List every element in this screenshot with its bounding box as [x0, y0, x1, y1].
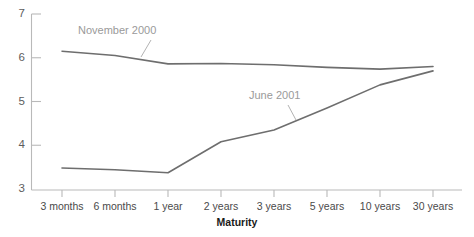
x-axis-title: Maturity [217, 216, 258, 228]
y-tick-label-6: 6 [19, 51, 25, 63]
x-tick-label-3-months: 3 months [40, 200, 83, 212]
annotation-june-2001: June 2001 [249, 89, 300, 101]
leader-line-june-2001 [288, 105, 296, 120]
x-tick-label-10-years: 10 years [360, 200, 400, 212]
yield-curve-chart: 7 6 5 4 3 3 months 6 months 1 year 2 yea… [0, 0, 474, 237]
series-line-june-2001 [62, 71, 433, 173]
y-tick-labels: 7 6 5 4 3 [19, 7, 26, 194]
x-tick-label-1-year: 1 year [153, 200, 183, 212]
y-tick-label-3: 3 [19, 182, 25, 194]
x-tick-label-5-years: 5 years [310, 200, 344, 212]
x-tick-label-3-years: 3 years [257, 200, 291, 212]
x-tick-label-30-years: 30 years [413, 200, 453, 212]
leader-line-november-2000 [141, 40, 151, 57]
x-tick-labels: 3 months 6 months 1 year 2 years 3 years… [40, 200, 453, 212]
chart-canvas: 7 6 5 4 3 3 months 6 months 1 year 2 yea… [0, 0, 474, 237]
x-tick-label-6-months: 6 months [93, 200, 136, 212]
x-tick-marks [62, 190, 433, 197]
y-tick-label-7: 7 [19, 7, 25, 19]
y-tick-label-4: 4 [19, 138, 26, 150]
series-line-november-2000 [62, 51, 433, 69]
annotation-november-2000: November 2000 [78, 24, 156, 36]
y-tick-marks [32, 14, 42, 145]
x-tick-label-2-years: 2 years [204, 200, 238, 212]
y-tick-label-5: 5 [19, 95, 25, 107]
